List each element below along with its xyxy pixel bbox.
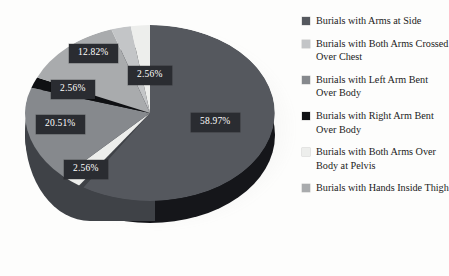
legend-swatch-icon [302, 148, 310, 156]
legend-item-label: Burials with Both Arms Crossed Over Ches… [316, 37, 449, 64]
legend-item-hands-inside-thigh[interactable]: Burials with Hands Inside Thigh [302, 181, 449, 195]
legend-item-label: Burials with Both Arms Over Body at Pelv… [316, 145, 449, 172]
data-label-both-arms-pelvis: 2.56% [64, 160, 108, 179]
legend-swatch-icon [302, 17, 310, 25]
pie-chart: 58.97% 2.56% 20.51% 2.56% 2.56% 12.82% [0, 0, 300, 276]
legend-swatch-icon [302, 112, 310, 120]
legend-item-arms-at-side[interactable]: Burials with Arms at Side [302, 14, 449, 28]
legend-item-label: Burials with Hands Inside Thigh [316, 181, 449, 195]
legend-item-label: Burials with Left Arm Bent Over Body [316, 73, 449, 100]
legend-swatch-icon [302, 184, 310, 192]
legend-item-right-arm-bent[interactable]: Burials with Right Arm Bent Over Body [302, 109, 449, 136]
data-label-arms-at-side: 58.97% [191, 113, 240, 132]
legend-item-left-arm-bent[interactable]: Burials with Left Arm Bent Over Body [302, 73, 449, 100]
data-label-right-arm-bent: 2.56% [51, 80, 95, 99]
data-label-left-arm-bent: 20.51% [36, 115, 85, 134]
legend-item-both-arms-crossed-chest[interactable]: Burials with Both Arms Crossed Over Ches… [302, 37, 449, 64]
legend-swatch-icon [302, 40, 310, 48]
legend-swatch-icon [302, 76, 310, 84]
legend-item-both-arms-pelvis[interactable]: Burials with Both Arms Over Body at Pelv… [302, 145, 449, 172]
legend-item-label: Burials with Right Arm Bent Over Body [316, 109, 449, 136]
data-label-hands-inside-thigh: 12.82% [69, 44, 118, 63]
legend-item-label: Burials with Arms at Side [316, 14, 421, 28]
chart-legend: Burials with Arms at Side Burials with B… [302, 14, 449, 266]
data-label-both-arms-crossed-chest: 2.56% [128, 66, 172, 85]
